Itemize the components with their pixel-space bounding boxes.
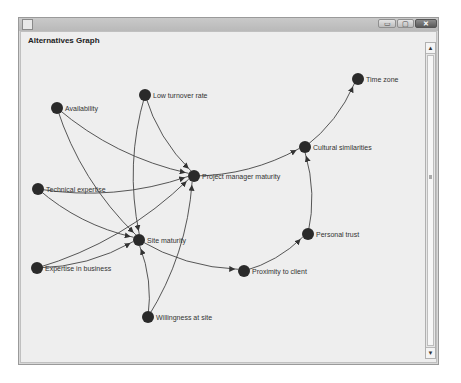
alternatives-graph: AvailabilityLow turnover rateTechnical e…: [0, 0, 461, 383]
edge-low-turnover-to-project-manager-maturity: [145, 95, 191, 171]
scroll-up-button[interactable]: ▲: [426, 43, 435, 54]
graph-nodes: AvailabilityLow turnover rateTechnical e…: [31, 73, 399, 323]
node-circle[interactable]: [188, 170, 200, 182]
vertical-scrollbar[interactable]: ▲ ▼: [425, 42, 436, 359]
arrow-down-icon: ▼: [428, 350, 434, 356]
scroll-thumb[interactable]: [427, 55, 434, 346]
node-willingness-at-site[interactable]: Willingness at site: [142, 311, 212, 323]
edge-site-maturity-to-proximity-to-client: [139, 240, 238, 269]
node-label: Low turnover rate: [153, 92, 208, 99]
node-label: Project manager maturity: [202, 173, 281, 181]
edge-availability-to-project-manager-maturity: [57, 108, 189, 173]
node-site-maturity[interactable]: Site maturity: [133, 234, 186, 246]
node-label: Time zone: [366, 76, 399, 83]
node-proximity-to-client[interactable]: Proximity to client: [238, 265, 307, 277]
node-circle[interactable]: [142, 311, 154, 323]
node-personal-trust[interactable]: Personal trust: [302, 228, 359, 240]
node-circle[interactable]: [31, 262, 43, 274]
node-label: Site maturity: [147, 237, 186, 245]
node-time-zone[interactable]: Time zone: [352, 73, 399, 85]
edge-personal-trust-to-cultural-similarities: [305, 153, 312, 234]
node-label: Cultural similarities: [313, 144, 372, 151]
edge-willingness-at-site-to-site-maturity: [140, 246, 150, 317]
node-circle[interactable]: [299, 141, 311, 153]
node-circle[interactable]: [139, 89, 151, 101]
node-label: Willingness at site: [156, 314, 212, 322]
node-label: Personal trust: [316, 231, 359, 238]
arrow-up-icon: ▲: [428, 45, 434, 51]
node-circle[interactable]: [352, 73, 364, 85]
node-circle[interactable]: [51, 102, 63, 114]
node-label: Availability: [65, 105, 98, 113]
edge-proximity-to-client-to-personal-trust: [244, 237, 303, 271]
edge-technical-expertise-to-site-maturity: [38, 189, 134, 237]
edge-low-turnover-to-site-maturity: [133, 95, 145, 234]
edge-willingness-at-site-to-project-manager-maturity: [148, 182, 192, 317]
edge-cultural-similarities-to-time-zone: [305, 84, 354, 147]
edge-availability-to-site-maturity: [57, 108, 136, 235]
node-label: Expertise in business: [45, 265, 112, 273]
node-circle[interactable]: [238, 265, 250, 277]
scroll-down-button[interactable]: ▼: [426, 347, 435, 358]
graph-edges: [37, 84, 354, 317]
edge-project-manager-maturity-to-cultural-similarities: [194, 149, 299, 176]
node-circle[interactable]: [32, 183, 44, 195]
node-circle[interactable]: [302, 228, 314, 240]
node-availability[interactable]: Availability: [51, 102, 98, 114]
node-label: Proximity to client: [252, 268, 307, 276]
node-label: Technical expertise: [46, 186, 106, 194]
node-circle[interactable]: [133, 234, 145, 246]
node-low-turnover[interactable]: Low turnover rate: [139, 89, 208, 101]
grip-icon: [429, 175, 432, 179]
